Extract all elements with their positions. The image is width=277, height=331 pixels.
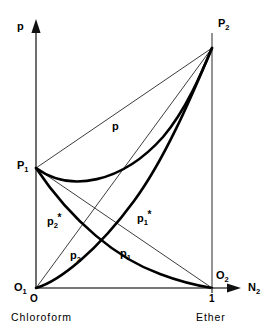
curve-label-p1-subscript: 1 <box>127 253 131 262</box>
y-axis-arrowhead <box>31 19 40 33</box>
curve-label-p1-star-text: p <box>137 212 144 224</box>
curve-label-p2-star: p2* <box>47 216 62 227</box>
point-label-o1-text: O <box>14 281 23 293</box>
x-axis-arrowhead <box>227 283 241 292</box>
component-label-left: Chloroform <box>11 312 72 323</box>
total-pressure-curve <box>36 48 212 181</box>
curve-label-p2-star-text: p <box>47 215 54 227</box>
diagram-canvas <box>0 0 277 331</box>
point-label-o1-subscript: 1 <box>23 287 27 296</box>
curve-label-p2-subscript: 2 <box>77 255 81 264</box>
point-label-p2: P2 <box>218 18 230 29</box>
x-axis-label-text: N <box>248 281 256 293</box>
point-label-o2-subscript: 2 <box>225 275 229 284</box>
curve-label-p2: p2 <box>70 250 81 261</box>
x-axis-label-subscript: 2 <box>256 287 260 296</box>
point-label-o1: O1 <box>14 282 27 293</box>
curve-label-p2-star-asterisk: * <box>57 212 61 223</box>
x-tick-label-origin: O <box>30 294 38 304</box>
curve-label-p2-text: p <box>70 249 77 261</box>
component-label-right: Ether <box>196 312 226 323</box>
point-label-p2-subscript: 2 <box>225 23 229 32</box>
vapour-pressure-diagram: p N2 P1 P2 O1 O2 O 1 Chloroform Ether p … <box>0 0 277 331</box>
curve-label-total-pressure: p <box>112 121 119 132</box>
curve-label-p1-star-asterisk: * <box>147 209 151 220</box>
y-axis-label: p <box>17 21 24 32</box>
point-label-p1-subscript: 1 <box>24 165 28 174</box>
curve-label-p1-star: p1* <box>137 213 152 224</box>
curve-label-p1: p1 <box>120 248 131 259</box>
x-tick-label-one: 1 <box>209 294 215 304</box>
curve-label-p1-text: p <box>120 247 127 259</box>
point-label-p1: P1 <box>17 160 29 171</box>
x-axis-label: N2 <box>248 282 260 293</box>
point-label-o2: O2 <box>216 270 229 281</box>
ideal-p1-star-line <box>36 168 212 288</box>
point-label-o2-text: O <box>216 269 225 281</box>
